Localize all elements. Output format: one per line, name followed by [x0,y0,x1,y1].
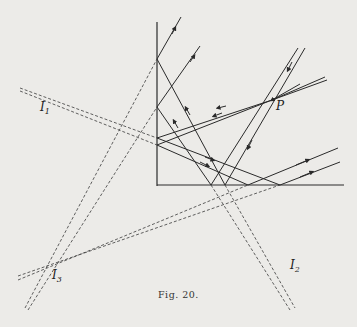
image-i1-label: I1 [40,100,50,116]
rays [157,17,340,185]
point-p-label: P [276,99,284,113]
figure-caption: Fig. 20. [158,289,199,300]
image-i2-label: I2 [290,258,300,274]
image-i3-label: I3 [52,268,62,284]
